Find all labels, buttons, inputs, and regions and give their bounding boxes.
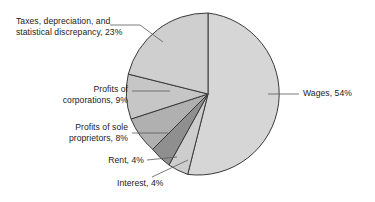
pie-label-taxes-line1: Taxes, depreciation, and [16,16,122,27]
pie-label-wages: Wages, 54% [303,88,352,99]
pie-label-sole-proprietors-line2: proprietors, 8% [34,133,128,144]
pie-label-sole-proprietors-line1: Profits of sole [34,122,128,133]
pie-label-corporations-line2: corporations, 9% [44,95,128,106]
pie-label-rent: Rent, 4% [82,155,144,166]
pie-label-interest: Interest, 4% [117,178,163,189]
pie-label-taxes: Taxes, depreciation, and statistical dis… [16,16,122,38]
pie-label-corporations: Profits of corporations, 9% [44,84,128,106]
pie-label-sole-proprietors: Profits of sole proprietors, 8% [34,122,128,144]
pie-label-corporations-line1: Profits of [44,84,128,95]
pie-chart: Taxes, depreciation, and statistical dis… [0,0,375,202]
pie-label-taxes-line2: statistical discrepancy, 23% [16,27,122,38]
